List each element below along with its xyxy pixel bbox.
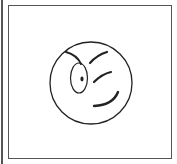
face-outline (50, 42, 132, 124)
open-eye (71, 63, 88, 93)
winking-eye (94, 72, 111, 82)
left-eyebrow (66, 52, 81, 64)
pupil (80, 77, 83, 82)
smile-mouth (94, 92, 118, 106)
right-eyebrow (90, 52, 107, 63)
winking-smiley-face-icon (0, 0, 177, 164)
